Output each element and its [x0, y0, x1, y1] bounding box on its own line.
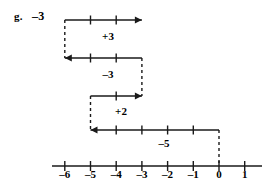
jump-minus-3-label: –3	[103, 68, 114, 80]
jump-plus-3-label: +3	[102, 30, 114, 42]
jump-plus-2-label: +2	[115, 105, 127, 117]
axis-tick-label: –1	[188, 168, 199, 180]
axis-tick-label: –3	[136, 168, 147, 180]
jump-minus-3-arrowhead	[65, 54, 72, 61]
jump-minus-5-arrowhead	[91, 126, 98, 133]
item-answer-value: –3	[32, 9, 45, 24]
axis-tick-label: –4	[111, 168, 122, 180]
item-letter: g.	[14, 10, 23, 22]
axis-tick-label: –5	[85, 168, 96, 180]
axis-tick-label: 1	[242, 168, 248, 180]
jump-minus-5-label: –5	[159, 137, 170, 149]
axis-tick-label: 0	[216, 168, 222, 180]
number-line-diagram-svg	[0, 0, 273, 182]
jump-plus-2-arrowhead	[135, 92, 142, 99]
number-line-figure: g. –3 +3–3+2–5 –6–5–4–3–2–101	[0, 0, 273, 182]
axis-tick-label: –6	[59, 168, 70, 180]
axis-tick-label: –2	[162, 168, 173, 180]
jump-plus-3-arrowhead	[135, 16, 142, 23]
